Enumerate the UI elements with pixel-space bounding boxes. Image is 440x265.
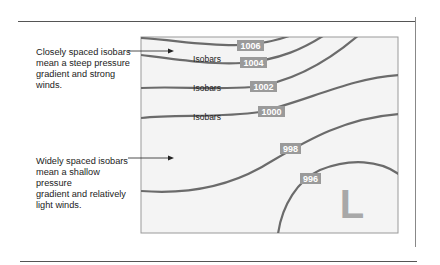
svg-text:1006: 1006	[240, 41, 260, 51]
isobars-label-2: Isobars	[193, 83, 221, 93]
isobar-map: Isobars Isobars Isobars 1006 1004 1002 1…	[0, 0, 440, 265]
svg-text:998: 998	[283, 144, 298, 154]
isobar-value-1006: 1006	[237, 40, 264, 51]
svg-text:1004: 1004	[243, 58, 263, 68]
svg-text:1002: 1002	[253, 82, 273, 92]
svg-text:1000: 1000	[261, 107, 281, 117]
isobar-value-996: 996	[300, 173, 321, 184]
isobars-label-3: Isobars	[193, 112, 221, 122]
isobar-value-1002: 1002	[250, 81, 277, 92]
isobar-value-998: 998	[280, 143, 301, 154]
isobar-value-1000: 1000	[258, 106, 285, 117]
isobar-value-1004: 1004	[240, 57, 267, 68]
isobars-label-1: Isobars	[193, 54, 221, 64]
low-pressure-marker: L	[340, 182, 364, 226]
svg-text:996: 996	[303, 174, 318, 184]
